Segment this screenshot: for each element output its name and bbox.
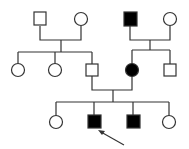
mating-line-II3-II4 [92, 76, 132, 90]
individual-I-2-unaffected-female [75, 13, 88, 26]
individual-II-3-unaffected-male [86, 64, 98, 76]
sibship-line-family-2 [132, 50, 170, 64]
sibship-line-family-1 [18, 52, 92, 64]
individual-III-2-affected-male-proband [88, 115, 101, 128]
individual-II-4-affected-female [126, 64, 139, 77]
pedigree-diagram [0, 0, 189, 149]
individual-I-4-unaffected-female [164, 13, 177, 26]
individual-II-2-unaffected-female [49, 64, 62, 77]
individual-I-1-unaffected-male [34, 12, 46, 25]
individual-III-1-unaffected-female [50, 116, 63, 129]
individual-I-3-affected-male [124, 12, 137, 26]
individual-II-1-unaffected-female [12, 64, 25, 77]
mating-line-I1-I2 [40, 26, 81, 40]
individual-III-4-unaffected-female [163, 116, 176, 129]
mating-line-I3-I4 [130, 26, 170, 40]
individual-II-5-unaffected-male [164, 64, 176, 76]
proband-arrow-icon [98, 130, 124, 145]
sibship-line-family-3 [56, 102, 169, 116]
individual-III-3-affected-male [127, 115, 140, 128]
